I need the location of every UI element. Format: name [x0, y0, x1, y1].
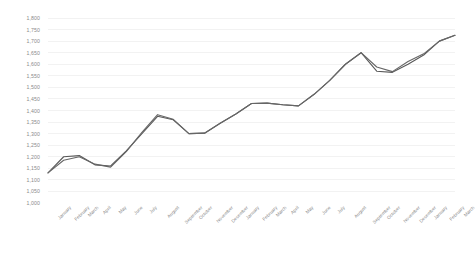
y-axis-tick-label: 1,100 [27, 177, 40, 183]
y-axis-tick-label: 1,050 [27, 188, 40, 194]
x-axis: JanuaryFebruaryMarchAprilMayJuneJulyAugu… [48, 203, 455, 253]
y-axis-tick-label: 1,800 [27, 15, 40, 21]
x-axis-tick-label: August [354, 205, 368, 219]
x-axis-tick-label: July [148, 205, 157, 214]
y-axis-tick-label: 1,550 [27, 73, 40, 79]
y-axis-tick-label: 1,350 [27, 119, 40, 125]
x-axis-tick-label: August [166, 205, 180, 219]
x-axis-tick-label: June [133, 205, 144, 216]
y-axis-tick-label: 1,000 [27, 200, 40, 206]
y-axis-tick-label: 1,700 [27, 38, 40, 44]
x-axis-tick-label: July [336, 205, 345, 214]
y-axis-tick-label: 1,250 [27, 142, 40, 148]
x-axis-tick-label: June [321, 205, 332, 216]
series-line [48, 35, 455, 173]
y-axis-tick-label: 1,300 [27, 131, 40, 137]
series-layer [48, 18, 455, 203]
y-axis-tick-label: 1,600 [27, 61, 40, 67]
x-axis-tick-label: April [102, 205, 112, 215]
y-axis-tick-label: 1,750 [27, 27, 40, 33]
x-axis-tick-label: May [305, 205, 315, 215]
plot-area [48, 18, 455, 203]
y-axis-tick-label: 1,150 [27, 165, 40, 171]
x-axis-tick-label: May [117, 205, 127, 215]
x-axis-tick-label: April [290, 205, 300, 215]
y-axis-tick-label: 1,200 [27, 154, 40, 160]
y-axis-tick-label: 1,450 [27, 96, 40, 102]
y-axis-tick-label: 1,500 [27, 84, 40, 90]
y-axis-tick-label: 1,400 [27, 108, 40, 114]
x-axis-tick-label: January [57, 205, 72, 220]
y-axis-tick-label: 1,650 [27, 50, 40, 56]
y-axis: 1,8001,7501,7001,6501,6001,5501,5001,450… [0, 18, 44, 203]
